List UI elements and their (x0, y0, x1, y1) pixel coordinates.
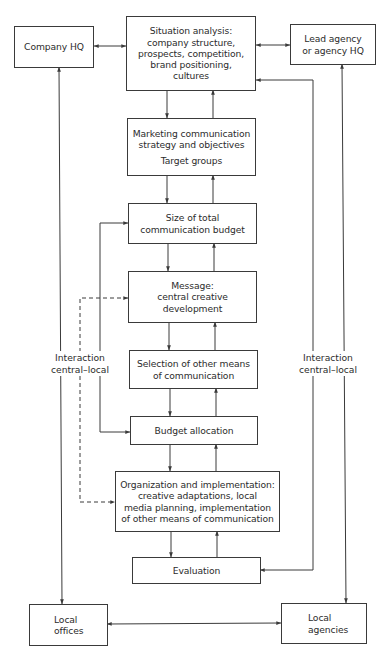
node-strategy-objectives: Marketing communication strategy and obj… (127, 118, 256, 176)
edge-budget-feedback-solid (100, 223, 130, 432)
target-groups-text: Target groups (161, 155, 223, 166)
edge-leadagency-localagencies (342, 64, 346, 603)
node-company-hq: Company HQ (14, 26, 94, 68)
right-interaction-label: Interaction central–local (298, 351, 358, 376)
node-selection-means: Selection of other means of communicatio… (129, 350, 258, 389)
node-local-offices: Local offices (29, 604, 108, 646)
left-interaction-label: Interaction central–local (50, 351, 110, 376)
node-message: Message: central creative development (128, 271, 257, 323)
node-budget-size: Size of total communication budget (128, 203, 257, 244)
node-local-agencies: Local agencies (281, 603, 367, 644)
edge-localoffices-localagencies (107, 623, 281, 624)
node-organization-implementation: Organization and implementation: creativ… (115, 471, 280, 532)
node-evaluation: Evaluation (132, 557, 261, 584)
node-budget-allocation: Budget allocation (130, 416, 258, 445)
node-lead-agency: Lead agency or agency HQ (290, 24, 376, 65)
edge-companyhq-localoffices (59, 67, 62, 604)
node-situation-analysis: Situation analysis: company structure, p… (126, 16, 256, 91)
